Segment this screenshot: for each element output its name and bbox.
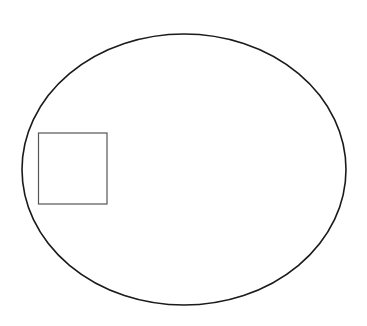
- inner-square: [39, 133, 108, 204]
- diagram-canvas: [0, 0, 367, 326]
- outer-ellipse: [22, 34, 346, 305]
